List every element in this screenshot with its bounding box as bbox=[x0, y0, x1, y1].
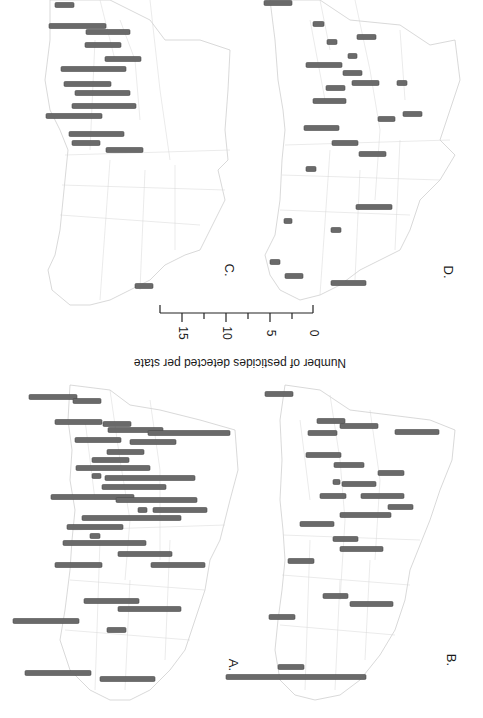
state-bar bbox=[278, 665, 304, 670]
tick-label-5: 5 bbox=[264, 330, 278, 337]
state-bar bbox=[313, 22, 324, 27]
state-bar bbox=[55, 420, 102, 425]
panel-label-d: D. bbox=[441, 266, 456, 279]
state-bar bbox=[90, 534, 100, 539]
state-bar bbox=[333, 480, 340, 485]
state-bar bbox=[284, 219, 292, 224]
state-bar bbox=[75, 91, 130, 96]
state-bar bbox=[343, 71, 362, 76]
state-bar bbox=[378, 117, 395, 122]
state-bar bbox=[270, 260, 280, 265]
state-bar bbox=[331, 281, 366, 286]
state-bar bbox=[118, 552, 172, 557]
state-bar bbox=[340, 547, 383, 552]
state-bar bbox=[63, 541, 146, 546]
state-bar bbox=[306, 453, 341, 458]
state-bar bbox=[82, 516, 181, 521]
state-bar bbox=[285, 274, 303, 279]
state-bar bbox=[327, 40, 337, 45]
state-bar bbox=[323, 594, 348, 599]
state-bar bbox=[73, 399, 101, 404]
state-bar bbox=[350, 602, 393, 607]
state-bar bbox=[352, 81, 379, 86]
state-bar bbox=[67, 525, 123, 530]
state-bar bbox=[102, 485, 166, 490]
state-bar bbox=[300, 522, 334, 527]
tick-label-0: 0 bbox=[307, 330, 321, 337]
state-bar bbox=[107, 628, 126, 633]
state-bar bbox=[378, 471, 404, 476]
state-bar bbox=[332, 141, 358, 146]
state-bar bbox=[72, 141, 100, 146]
state-bar bbox=[103, 422, 131, 427]
panel-label-c: C. bbox=[222, 264, 237, 277]
state-bar bbox=[105, 476, 195, 481]
state-bar bbox=[397, 81, 407, 86]
state-bar bbox=[320, 494, 346, 499]
state-bar bbox=[348, 54, 357, 59]
state-bar bbox=[306, 167, 316, 172]
state-bar bbox=[264, 1, 292, 6]
state-bar bbox=[151, 563, 205, 568]
tick-label-10: 10 bbox=[220, 326, 234, 340]
state-bar bbox=[86, 30, 130, 35]
state-bar bbox=[361, 494, 404, 499]
state-bar bbox=[75, 438, 121, 443]
state-bar bbox=[359, 152, 386, 157]
state-bar bbox=[55, 563, 102, 568]
state-bar bbox=[403, 112, 422, 117]
panel-a-bars bbox=[13, 395, 230, 682]
state-bar bbox=[107, 450, 144, 455]
state-bar bbox=[100, 677, 155, 682]
state-bar bbox=[29, 395, 77, 400]
state-bar bbox=[138, 508, 147, 513]
state-bar bbox=[153, 508, 207, 513]
state-bar bbox=[76, 466, 150, 471]
pesticide-bar-map-figure: 15 10 5 0 Number of pesticides detected … bbox=[0, 0, 483, 718]
map-d-states bbox=[280, 0, 450, 295]
state-bar bbox=[356, 205, 392, 210]
state-bar bbox=[130, 440, 176, 445]
panel-label-b: B. bbox=[444, 654, 459, 666]
state-bar bbox=[55, 3, 74, 8]
legend-axis-title: Number of pesticides detected per state bbox=[134, 356, 346, 370]
scale-legend: 15 10 5 0 Number of pesticides detected … bbox=[134, 305, 346, 370]
state-bar bbox=[388, 505, 413, 510]
state-bar bbox=[304, 126, 339, 131]
state-bar bbox=[106, 148, 143, 153]
state-bar bbox=[92, 474, 101, 479]
state-bar bbox=[118, 607, 181, 612]
state-bar bbox=[333, 537, 358, 542]
state-bar bbox=[226, 675, 366, 680]
state-bar bbox=[69, 132, 124, 137]
state-bar bbox=[116, 498, 197, 503]
state-bar bbox=[308, 431, 337, 436]
state-bar bbox=[85, 43, 121, 48]
state-bar bbox=[326, 86, 345, 91]
state-bar bbox=[25, 671, 91, 676]
state-bar bbox=[105, 57, 141, 62]
state-bar bbox=[313, 99, 346, 104]
state-bar bbox=[13, 619, 79, 624]
state-bar bbox=[342, 482, 376, 487]
state-bar bbox=[331, 228, 341, 233]
panel-b-bars bbox=[226, 392, 439, 680]
state-bar bbox=[61, 67, 126, 72]
state-bar bbox=[340, 513, 391, 518]
state-bar bbox=[64, 82, 111, 87]
state-bar bbox=[288, 559, 314, 564]
map-d-outline bbox=[265, 0, 460, 300]
state-bar bbox=[340, 424, 378, 429]
state-bar bbox=[49, 24, 106, 29]
panel-d-bars bbox=[264, 1, 422, 286]
state-bar bbox=[92, 458, 129, 463]
state-bar bbox=[72, 104, 136, 109]
tick-label-15: 15 bbox=[176, 326, 190, 340]
state-bar bbox=[265, 392, 293, 397]
state-bar bbox=[306, 63, 342, 68]
state-bar bbox=[84, 599, 139, 604]
state-bar bbox=[148, 431, 230, 436]
state-bar bbox=[269, 615, 295, 620]
state-bar bbox=[334, 463, 364, 468]
state-bar bbox=[395, 430, 439, 435]
